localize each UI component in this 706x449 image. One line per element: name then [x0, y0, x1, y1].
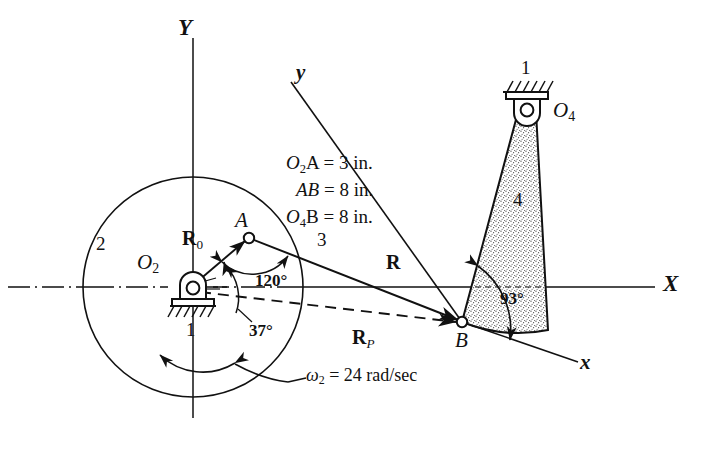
label-omega2: ω2 = 24 rad/sec — [306, 366, 417, 387]
rp-letter: R — [352, 326, 366, 348]
axis-label-frame-y: y — [296, 62, 305, 83]
angle-arc-37 — [213, 262, 252, 322]
angle-label-93: 93° — [500, 290, 524, 307]
dimension-line-1: O2A = 3 in. — [286, 153, 373, 175]
label-B: B — [455, 330, 468, 351]
label-O4: O4 — [553, 100, 575, 124]
dim3-symbol: O — [286, 206, 300, 227]
frame-y-axis — [291, 82, 462, 322]
angle-label-120: 120° — [255, 272, 287, 289]
pivot-O2-bearing — [168, 272, 216, 317]
omega-value: = 24 rad/sec — [325, 365, 418, 385]
o4-subscript: 4 — [568, 109, 575, 124]
label-link-2: 2 — [96, 234, 106, 253]
label-link-4: 4 — [513, 190, 523, 209]
axis-label-X: X — [663, 272, 678, 295]
dim2-rest: = 8 in. — [319, 179, 373, 200]
r0-letter: R — [182, 227, 196, 249]
dimension-line-2: AB = 8 in. — [296, 180, 373, 199]
label-link-1-lower: 1 — [186, 320, 196, 339]
o2-letter: O — [137, 250, 152, 274]
dim2-symbol: AB — [296, 179, 319, 200]
o2-subscript: 2 — [152, 261, 159, 276]
omega2-rotation-arrow — [160, 355, 306, 382]
axis-label-Y: Y — [178, 16, 192, 39]
joint-A — [244, 233, 254, 243]
label-O2: O2 — [137, 252, 159, 276]
omega-symbol: ω — [306, 365, 319, 385]
r0-subscript: 0 — [196, 237, 203, 252]
label-link-1-upper: 1 — [521, 58, 531, 77]
pivot-O4-bearing — [503, 81, 553, 126]
o4-letter: O — [553, 98, 568, 122]
angle-label-37: 37° — [249, 322, 273, 339]
vector-R0 — [198, 241, 245, 281]
dim3-rest: B = 8 in. — [306, 206, 373, 227]
label-vector-RP: RP — [352, 327, 375, 350]
figure-canvas: Y X y x O2A = 3 in. AB = 8 in. O4B = 8 i… — [0, 0, 706, 449]
dim1-rest: A = 3 in. — [306, 152, 373, 173]
dimension-line-3: O4B = 8 in. — [286, 207, 373, 229]
joint-B — [457, 317, 467, 327]
dim1-symbol: O — [286, 152, 300, 173]
axis-label-frame-x: x — [580, 352, 591, 373]
label-link-3: 3 — [317, 230, 327, 249]
label-A: A — [235, 210, 248, 231]
label-vector-R: R — [386, 252, 400, 272]
rp-subscript: P — [366, 336, 374, 351]
label-vector-R0: R0 — [182, 228, 203, 251]
